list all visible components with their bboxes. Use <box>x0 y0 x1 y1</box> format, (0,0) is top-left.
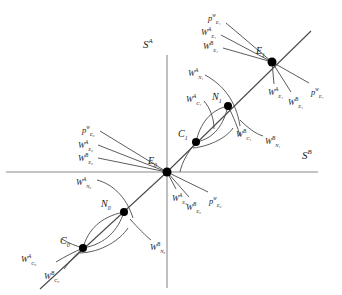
axis-label-SB: SB <box>302 150 312 161</box>
point-N0 <box>120 208 128 216</box>
point-C1 <box>192 138 200 146</box>
point-label-C1: C1 <box>178 129 188 139</box>
point-label-C0: C0 <box>60 236 70 246</box>
point-E1 <box>268 58 277 67</box>
manifold-label-WA-E1-lower: WAE₁ <box>268 88 283 97</box>
point-label-E1: E1 <box>256 46 265 56</box>
phase-portrait-figure <box>0 0 342 295</box>
manifold-label-pw-E1-upper: pwE₁ <box>208 14 220 23</box>
manifold-label-WB-C1: WBC₁ <box>236 130 251 139</box>
point-label-N1: N1 <box>212 92 222 102</box>
point-label-E0: E0 <box>148 156 157 166</box>
manifold-label-WA-C0: WAC₀ <box>21 255 36 264</box>
point-label-N0: N0 <box>101 199 111 209</box>
manifold-label-WB-E0-lower: WBE₀ <box>186 203 201 212</box>
curve-C1-N1-right <box>196 106 228 142</box>
curve-C1-N1-left <box>196 106 228 142</box>
point-C0 <box>79 244 87 252</box>
manifold-label-WB-E1-lower: WBE₁ <box>288 98 303 107</box>
fixed-points-group <box>79 58 277 253</box>
manifold-label-WB-N0: WBN₀ <box>150 243 165 252</box>
curve-WB-N0 <box>130 219 151 240</box>
axis-label-SA: SA <box>143 39 153 50</box>
separatrix-pw-E1-upper <box>226 23 272 62</box>
point-N1 <box>224 102 232 110</box>
manifold-label-WB-E1-upper: WBE₁ <box>203 42 218 51</box>
separatrix-pw-E1-lower <box>272 62 309 83</box>
curve-WA-C1 <box>204 101 214 129</box>
manifold-label-WA-N1: WAN₁ <box>188 69 203 78</box>
manifold-label-WB-N1: WBN₁ <box>265 137 280 146</box>
manifold-label-WA-E0-lower: WAE₀ <box>172 194 187 203</box>
manifold-label-WB-C0: WBC₀ <box>44 272 59 281</box>
curve-C0-loop-outer <box>80 228 128 253</box>
manifold-label-WA-N0: WAN₀ <box>76 178 91 187</box>
separatrix-pw-E0-lower <box>167 172 208 192</box>
curve-C0-tail-a <box>56 248 83 262</box>
manifold-label-WA-E0-upper: WAE₀ <box>78 141 93 150</box>
point-E0 <box>163 168 172 177</box>
manifold-label-WA-E1-upper: WAE₁ <box>201 28 216 37</box>
manifold-label-pw-E0-lower: pwE₀ <box>209 197 221 206</box>
manifold-label-WA-C1: WAC₁ <box>186 95 201 104</box>
manifold-label-pw-E1-lower: pwE₁ <box>311 88 323 97</box>
manifold-label-WB-E0-upper: WBE₀ <box>78 154 93 163</box>
manifold-label-pw-E0-upper: pwE₀ <box>82 126 94 135</box>
